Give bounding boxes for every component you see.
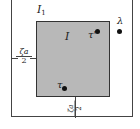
lambda-label: λ [117, 16, 123, 26]
left-margin-denominator: 2 [16, 57, 32, 65]
outer-region-label: I1 [37, 4, 46, 17]
outer-label-subscript: 1 [41, 9, 45, 17]
bottom-margin-denominator: 2 [76, 101, 83, 117]
tau-prime-point [95, 29, 100, 34]
tau-point [62, 86, 67, 91]
left-margin-label: ζa 2 [16, 48, 32, 65]
bottom-margin-label: ζa 2 [68, 101, 83, 117]
inner-region-label: I [65, 31, 69, 42]
lambda-point [117, 29, 122, 34]
